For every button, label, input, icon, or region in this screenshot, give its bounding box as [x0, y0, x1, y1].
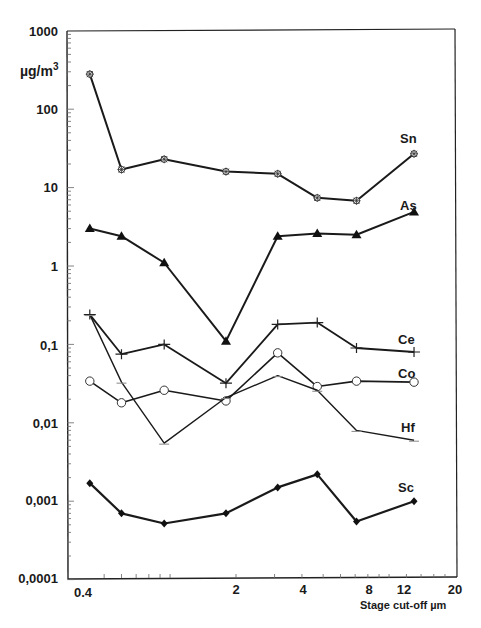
- x-axis-title: Stage cut-off µm: [360, 599, 447, 611]
- chart-canvas: 1000 100 10 1 0,1 0,01 0,001 0,0001 µg/m…: [0, 0, 481, 628]
- series-label-sc: Sc: [398, 480, 414, 495]
- star-marker: [274, 170, 282, 178]
- x-tick-label: 0.4: [74, 585, 93, 600]
- diamond-marker: [222, 509, 229, 517]
- circle-marker: [117, 399, 125, 407]
- y-tick-label: 100: [36, 102, 58, 117]
- series-label-hf: Hf: [401, 420, 415, 435]
- x-tick-label: 8: [365, 582, 372, 597]
- plus-marker: [115, 349, 127, 359]
- series-sn: [86, 70, 418, 205]
- x-axis: [68, 577, 457, 579]
- series-label-co: Co: [398, 366, 415, 381]
- y-tick-label: 0,1: [40, 338, 58, 353]
- series-sc: [86, 470, 417, 527]
- series-label-sn: Sn: [400, 131, 417, 146]
- plot-right-border: [455, 29, 457, 577]
- circle-marker: [160, 386, 168, 394]
- diamond-marker: [161, 519, 168, 527]
- x-tick-label: 4: [299, 582, 307, 597]
- circle-marker: [352, 377, 360, 385]
- plot-top-border: [67, 29, 455, 31]
- star-marker: [222, 168, 230, 176]
- star-marker: [160, 155, 168, 163]
- series-label-ce: Ce: [398, 332, 415, 347]
- star-marker: [313, 194, 321, 202]
- y-tick-label: 0,01: [33, 416, 58, 431]
- star-marker: [410, 150, 418, 158]
- x-tick-label: 12: [397, 582, 411, 597]
- series-as: [85, 207, 419, 345]
- plus-marker: [408, 347, 420, 357]
- series-co: [86, 349, 419, 407]
- diamond-marker: [411, 497, 418, 505]
- diamond-marker: [274, 483, 281, 491]
- triangle-marker: [159, 258, 169, 267]
- series-layer: [84, 70, 420, 527]
- star-marker: [353, 197, 361, 205]
- y-tick-label: 1: [51, 259, 58, 274]
- circle-marker: [86, 377, 94, 385]
- x-tick-label: 2: [232, 582, 239, 597]
- triangle-marker: [85, 224, 95, 233]
- star-marker: [117, 166, 125, 174]
- x-tick-label: 20: [448, 582, 462, 597]
- y-unit-label: µg/m3: [20, 61, 59, 79]
- y-tick-label: 0,001: [25, 493, 58, 508]
- series-hf: [85, 315, 419, 445]
- y-tick-label: 1000: [29, 24, 58, 39]
- star-marker: [86, 70, 94, 78]
- y-axis: [67, 31, 68, 579]
- circle-marker: [273, 349, 281, 357]
- series-label-as: As: [400, 198, 417, 213]
- y-tick-label: 10: [44, 180, 58, 195]
- y-tick-label: 0,0001: [18, 571, 58, 586]
